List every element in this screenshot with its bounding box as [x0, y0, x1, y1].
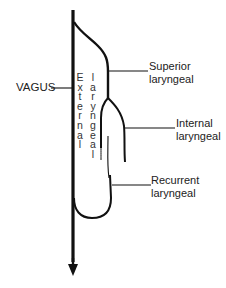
external-vertical-label: External [75, 73, 85, 150]
internal-laryngeal-label: Internal laryngeal [176, 117, 221, 143]
superior-laryngeal-label: Superior laryngeal [149, 60, 194, 86]
external-laryngeal-branch [101, 98, 108, 148]
vagus-label: VAGUS [16, 81, 55, 94]
internal-laryngeal-nerve [108, 98, 125, 162]
recurrent-laryngeal-nerve [74, 175, 111, 218]
inner-nerve-fiber [108, 136, 109, 178]
nerve-diagram [0, 0, 226, 288]
laryngeal-vertical-label: laryngeal [88, 73, 98, 159]
recurrent-laryngeal-label: Recurrent laryngeal [151, 174, 199, 200]
